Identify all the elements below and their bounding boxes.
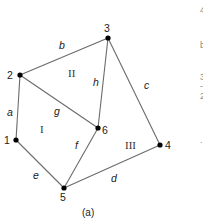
vertex-1 [13,137,18,142]
vertex-4 [157,142,162,147]
vertex-5 [61,185,66,190]
face-label-I: I [40,123,44,135]
face-label-III: III [125,139,136,151]
vertex-2 [17,72,22,77]
edge-label-f: f [75,139,79,151]
clipped-text-fragment: 2 [200,91,203,101]
edge-label-b: b [59,39,65,51]
face-label-II: II [68,67,76,79]
edges-layer [16,38,160,188]
edge-label-e: e [33,169,39,181]
edge-f [64,128,98,188]
edge-label-a: a [7,106,13,118]
vertex-label-5: 5 [60,191,66,203]
graph-figure: 1 2 3 4 5 6 a b c d e f g h I II III (a)… [0,0,203,222]
vertex-3 [105,35,110,40]
vertex-label-1: 1 [4,134,10,146]
vertex-label-2: 2 [7,69,13,81]
edge-e [16,140,64,188]
vertex-6 [95,125,100,130]
edge-label-g: g [54,105,60,117]
vertex-label-6: 6 [102,124,108,136]
vertex-label-3: 3 [104,22,110,34]
clipped-text-fragment: - [200,81,203,91]
figure-caption: (a) [82,207,94,218]
edge-label-d: d [111,172,118,184]
edge-c [108,38,160,145]
vertex-label-4: 4 [165,139,171,151]
vertices-layer [13,35,162,190]
edge-g [20,75,98,128]
clipped-text-fragment: . [200,135,203,145]
edge-label-h: h [93,76,99,88]
edge-h [98,38,108,128]
edge-a [16,75,20,140]
clipped-text-fragment: b [200,40,203,50]
edge-label-c: c [144,79,150,91]
clipped-text-fragment: 4 [200,5,203,15]
